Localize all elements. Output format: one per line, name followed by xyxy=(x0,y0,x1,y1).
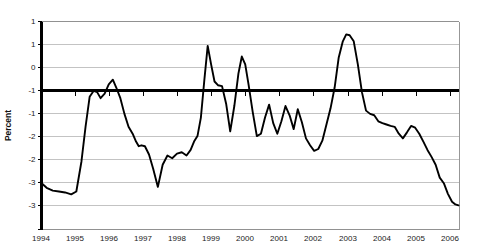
x-tick-label: 2000 xyxy=(236,234,254,243)
x-tick-label: 2001 xyxy=(270,234,288,243)
y-tick-label: -2 xyxy=(28,132,36,141)
line-chart: 110-1-1-2-2-3-3 199419951996199719981999… xyxy=(0,0,478,252)
plot-frame xyxy=(41,22,460,230)
y-tick-label: 1 xyxy=(31,40,36,49)
x-tick-label: 1994 xyxy=(32,234,50,243)
y-axis-title: Percent xyxy=(3,110,13,141)
x-tick-label: 1995 xyxy=(66,234,84,243)
data-series xyxy=(41,34,459,205)
x-tick-label: 1996 xyxy=(100,234,118,243)
y-tick-label: -1 xyxy=(28,109,36,118)
x-tick-label: 1997 xyxy=(134,234,152,243)
x-tick-label: 2003 xyxy=(339,234,357,243)
y-tick-label: -2 xyxy=(28,155,36,164)
x-tick-label: 2004 xyxy=(373,234,391,243)
y-tick-label: -3 xyxy=(28,178,36,187)
series-line xyxy=(41,34,459,205)
x-axis-tick-labels: 1994199519961997199819992000200120022003… xyxy=(32,234,459,243)
chart-canvas: 110-1-1-2-2-3-3 199419951996199719981999… xyxy=(0,0,478,252)
x-tick-label: 1998 xyxy=(168,234,186,243)
x-tick-label: 2005 xyxy=(407,234,425,243)
x-tick-label: 1999 xyxy=(202,234,220,243)
y-axis-title-text: Percent xyxy=(3,110,13,141)
y-axis-tick-labels: 110-1-1-2-2-3-3 xyxy=(28,17,36,210)
y-tick-label: -1 xyxy=(28,86,36,95)
y-tick-label: -3 xyxy=(28,201,36,210)
x-tick-label: 2002 xyxy=(304,234,322,243)
y-tick-label: 0 xyxy=(31,63,36,72)
gridlines xyxy=(41,22,459,230)
y-tick-label: 1 xyxy=(31,17,36,26)
x-tick-label: 2006 xyxy=(441,234,459,243)
